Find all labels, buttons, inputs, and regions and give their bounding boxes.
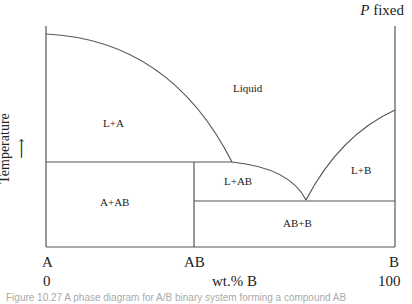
region-l-a: L+A [103,117,124,129]
region-l-b: L+B [351,164,371,176]
region-l-ab: L+AB [224,175,252,187]
tick-value-0: 0 [43,273,51,290]
tick-A: A [42,254,53,271]
liquidus-B [306,110,395,200]
tick-AB: AB [184,254,205,271]
tick-value-100: 100 [378,273,401,290]
phase-diagram-lines [0,0,412,304]
region-a-ab: A+AB [100,196,129,208]
chart-title: P fixed [360,2,404,19]
liquidus-A [46,34,232,162]
figure-caption: Figure 10.27 A phase diagram for A/B bin… [6,292,346,303]
region-liquid: Liquid [233,82,262,94]
region-ab-b: AB+B [283,217,312,229]
y-axis-label: Temperature ⟶ [0,104,30,194]
tick-B: B [389,254,399,271]
x-axis-label: wt.% B [212,273,257,290]
